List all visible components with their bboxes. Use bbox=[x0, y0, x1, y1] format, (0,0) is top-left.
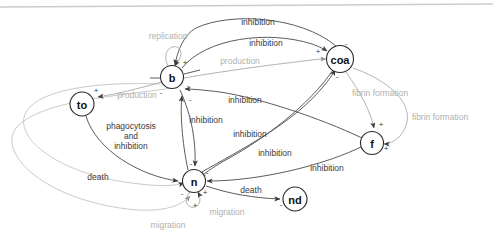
edge-label-l4: production bbox=[220, 56, 260, 66]
edge-label-l6: inhibition bbox=[228, 95, 262, 105]
edge-label-l7: inhibition bbox=[189, 115, 223, 125]
edge-label-l5: production bbox=[117, 90, 157, 100]
edge-sign-s12: - bbox=[206, 168, 209, 177]
edge-label-l3: replication bbox=[149, 31, 188, 41]
node-label-to: to bbox=[77, 99, 88, 111]
edge-label-l13: death bbox=[87, 172, 109, 182]
multiline-label-layer: phagocytosisandinhibition bbox=[106, 121, 156, 151]
edge-sign-s9: + bbox=[379, 120, 384, 129]
node-coa[interactable]: coa bbox=[327, 46, 354, 73]
edge-label-l9: inhibition bbox=[258, 148, 292, 158]
edge-sign-s7: - bbox=[336, 72, 339, 81]
edge-coa-to-f-fibrin-inner bbox=[346, 72, 374, 128]
edge-label-l2: inhibition bbox=[249, 38, 283, 48]
edge-label-l16: migration bbox=[151, 220, 186, 230]
edge-label-l1: inhibition bbox=[241, 17, 275, 27]
edge-migration-long bbox=[12, 88, 190, 210]
edge-sign-s16: - bbox=[280, 200, 283, 209]
edge-sign-s8: + bbox=[94, 86, 99, 95]
edge-stub-b-right bbox=[184, 70, 200, 74]
node-b[interactable]: b bbox=[161, 66, 184, 89]
edge-label-l8: inhibition bbox=[233, 129, 267, 139]
page-edge-rule bbox=[0, 4, 493, 7]
node-label-coa: coa bbox=[331, 54, 351, 66]
edge-sign-s11: - bbox=[190, 159, 193, 168]
edge-sign-s1: + bbox=[183, 58, 188, 67]
edge-label-l15: migration bbox=[210, 207, 245, 217]
edge-sign-s2: - bbox=[187, 81, 190, 90]
edge-sign-s10: + bbox=[384, 144, 389, 153]
edge-coa-to-f-fibrin-outer bbox=[353, 68, 407, 144]
edge-sign-s14: + bbox=[203, 188, 208, 197]
influence-graph: bcoatofnnd +---+--+++---++- inhibitionin… bbox=[0, 0, 493, 236]
edge-sign-s13: - bbox=[181, 189, 184, 198]
edge-sign-s4: - bbox=[189, 95, 192, 104]
edge-b-self-replication bbox=[166, 47, 181, 66]
edge-to-n-death-outer bbox=[24, 84, 184, 186]
node-to[interactable]: to bbox=[70, 92, 94, 116]
edge-sign-s3: - bbox=[160, 88, 163, 97]
edge-f-to-b-inhibition bbox=[185, 89, 362, 138]
edge-sign-s15: + bbox=[193, 201, 198, 210]
edge-label-l14: death bbox=[240, 185, 262, 195]
edge-label-l10: inhibition bbox=[310, 163, 344, 173]
edge-sign-s5: + bbox=[316, 47, 321, 56]
edge-label-l12: fibrin formation bbox=[412, 112, 468, 122]
edge-label-ml1: phagocytosisandinhibition bbox=[106, 121, 156, 151]
edge-sign-s6: - bbox=[345, 39, 348, 48]
node-label-n: n bbox=[191, 176, 198, 188]
node-label-b: b bbox=[169, 72, 176, 84]
diagram-canvas: bcoatofnnd +---+--+++---++- inhibitionin… bbox=[0, 0, 493, 236]
node-f[interactable]: f bbox=[361, 132, 384, 155]
node-label-f: f bbox=[370, 138, 374, 150]
edge-label-l11: fibrin formation bbox=[352, 88, 408, 98]
node-nd[interactable]: nd bbox=[283, 187, 307, 211]
node-label-nd: nd bbox=[288, 194, 301, 206]
